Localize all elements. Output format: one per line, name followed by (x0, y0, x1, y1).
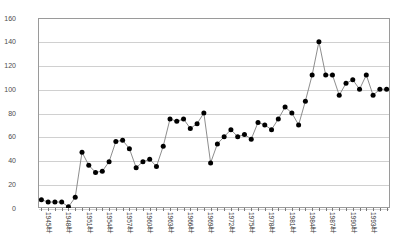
x-axis-tick (360, 208, 361, 211)
x-axis-tick (62, 208, 63, 211)
x-axis-tick (319, 208, 320, 211)
x-axis-tick (123, 208, 124, 211)
y-axis-tick-label: 40 (0, 157, 16, 164)
x-axis-tick (299, 208, 300, 211)
y-axis-tick-label: 140 (0, 38, 16, 45)
x-axis-tick (82, 208, 83, 211)
x-axis-tick (102, 208, 103, 211)
data-point (310, 73, 315, 78)
x-axis-tick (353, 208, 354, 211)
series-markers (39, 39, 389, 208)
x-axis-tick-label: 1975年 (247, 212, 254, 233)
data-point (364, 73, 369, 78)
x-axis-tick (89, 208, 90, 211)
x-axis-tick (184, 208, 185, 211)
y-axis-tick-label: 100 (0, 86, 16, 93)
x-axis-tick (251, 208, 252, 211)
x-axis-tick (116, 208, 117, 211)
x-axis-tick (380, 208, 381, 211)
x-axis-tick-label: 1948年 (65, 212, 72, 233)
x-axis-tick (190, 208, 191, 211)
x-axis-tick (136, 208, 137, 211)
x-axis-tick (265, 208, 266, 211)
data-point (208, 160, 213, 165)
x-axis-tick (150, 208, 151, 211)
data-point (181, 116, 186, 121)
x-axis-tick (197, 208, 198, 211)
data-point (215, 141, 220, 146)
x-axis-tick (272, 208, 273, 211)
data-point (154, 164, 159, 169)
data-point (296, 122, 301, 127)
y-axis-tick-label: 0 (0, 205, 16, 212)
x-axis-tick (204, 208, 205, 211)
x-axis-tick (41, 208, 42, 211)
x-axis-tick-label: 1987年 (329, 212, 336, 233)
data-series-layer (38, 18, 390, 208)
x-axis-tick (48, 208, 49, 211)
data-point (120, 138, 125, 143)
series-line (41, 42, 386, 207)
x-axis-tick-label: 1963年 (166, 212, 173, 233)
x-axis-tick-label: 1960年 (146, 212, 153, 233)
x-axis-tick-label: 1981年 (288, 212, 295, 233)
x-axis-tick (156, 208, 157, 211)
y-axis-tick-label: 60 (0, 133, 16, 140)
x-axis-tick (387, 208, 388, 211)
data-point (283, 105, 288, 110)
gridline (39, 209, 389, 210)
data-point (344, 81, 349, 86)
data-point (222, 134, 227, 139)
data-point (161, 144, 166, 149)
x-axis-tick-label: 1945年 (44, 212, 51, 233)
x-axis-tick (217, 208, 218, 211)
data-point (140, 159, 145, 164)
x-axis-tick (305, 208, 306, 211)
x-axis-tick-label: 1990年 (349, 212, 356, 233)
data-point (100, 169, 105, 174)
x-axis-tick-label: 1972年 (227, 212, 234, 233)
data-point (93, 170, 98, 175)
data-point (188, 126, 193, 131)
data-point (195, 121, 200, 126)
data-point (242, 132, 247, 137)
data-point (86, 163, 91, 168)
x-axis-tick-label: 1957年 (126, 212, 133, 233)
x-axis-tick (129, 208, 130, 211)
x-axis-tick-label: 1978年 (268, 212, 275, 233)
chart-container: 020406080100120140160 1945年1948年1951年195… (0, 0, 415, 247)
data-point (134, 165, 139, 170)
x-axis-tick (224, 208, 225, 211)
x-axis-tick-label: 1966年 (187, 212, 194, 233)
data-point (235, 134, 240, 139)
x-axis-tick (109, 208, 110, 211)
x-axis-tick (238, 208, 239, 211)
data-point (39, 197, 44, 202)
data-point (330, 73, 335, 78)
data-point (174, 119, 179, 124)
x-axis-tick (170, 208, 171, 211)
x-axis-tick-label: 1951年 (85, 212, 92, 233)
x-axis-tick (163, 208, 164, 211)
data-point (168, 116, 173, 121)
data-point (147, 157, 152, 162)
data-point (228, 127, 233, 132)
x-axis-tick (326, 208, 327, 211)
data-point (377, 87, 382, 92)
x-axis-tick-label: 1969年 (207, 212, 214, 233)
data-point (52, 200, 57, 205)
data-point (113, 139, 118, 144)
data-point (337, 93, 342, 98)
data-point (127, 146, 132, 151)
data-point (262, 122, 267, 127)
x-axis-tick (211, 208, 212, 211)
data-point (371, 93, 376, 98)
data-point (269, 127, 274, 132)
x-axis-tick (244, 208, 245, 211)
data-point (384, 87, 389, 92)
x-axis-tick (258, 208, 259, 211)
x-axis-tick-label: 1984年 (308, 212, 315, 233)
x-axis-tick (373, 208, 374, 211)
x-axis-tick (278, 208, 279, 211)
data-point (256, 120, 261, 125)
